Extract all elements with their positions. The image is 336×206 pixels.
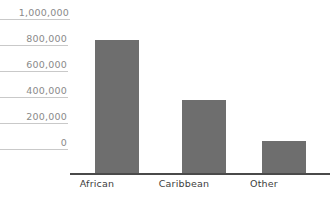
plot-area [70,8,330,174]
x-axis-label-caribbean: Caribbean [158,178,210,189]
bar-other [262,141,306,174]
x-axis-line [70,173,330,175]
y-axis-tick-label-0: 0 [0,137,68,150]
y-axis-tick-label-400000: 400,000 [0,85,68,98]
y-axis-tick-label-600000: 600,000 [0,59,68,72]
y-axis-tick-label-1000000: 1,000,000 [0,7,70,20]
bar-african [95,40,139,174]
bar-caribbean [182,100,226,174]
x-axis-label-other: Other [240,178,288,189]
y-axis-tick-label-200000: 200,000 [0,111,68,124]
bar-chart: 1,000,000 800,000 600,000 400,000 200,00… [0,0,336,206]
x-axis-label-african: African [73,178,121,189]
y-axis-tick-label-800000: 800,000 [0,33,68,46]
